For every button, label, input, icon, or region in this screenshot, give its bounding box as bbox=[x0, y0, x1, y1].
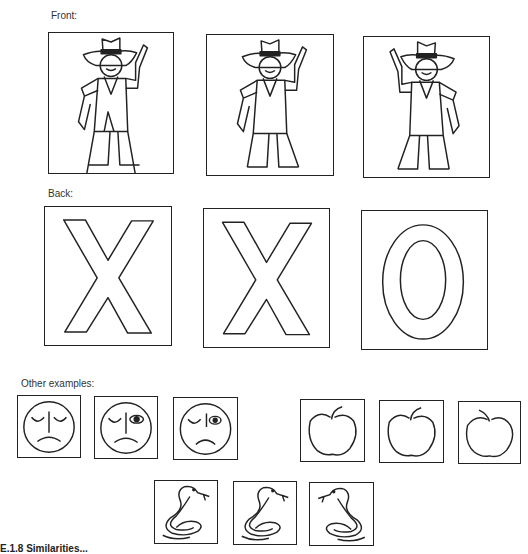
sad-face-icon bbox=[174, 398, 237, 459]
apple-card-2 bbox=[379, 400, 444, 463]
front-card-2 bbox=[206, 34, 334, 176]
letter-o-icon bbox=[362, 211, 487, 349]
snake-card-1 bbox=[154, 480, 218, 544]
apple-icon bbox=[301, 400, 364, 461]
snake-icon bbox=[234, 482, 296, 544]
letter-x-icon bbox=[204, 209, 329, 347]
front-label: Front: bbox=[51, 10, 77, 21]
front-card-3 bbox=[363, 36, 490, 178]
back-card-1 bbox=[44, 206, 172, 346]
snake-card-3 bbox=[309, 482, 374, 546]
face-card-1 bbox=[17, 395, 81, 458]
apple-card-1 bbox=[300, 399, 365, 462]
snake-card-2 bbox=[233, 481, 297, 545]
other-examples-label: Other examples: bbox=[21, 378, 94, 389]
front-card-1 bbox=[48, 32, 174, 174]
sad-face-icon bbox=[95, 397, 157, 458]
cowboy-icon bbox=[207, 35, 333, 175]
back-card-2 bbox=[203, 208, 330, 348]
cowboy-icon bbox=[364, 37, 489, 177]
snake-icon bbox=[310, 483, 373, 545]
sad-face-icon bbox=[18, 396, 80, 457]
back-card-3 bbox=[361, 210, 488, 350]
figure-caption: E.1.8 Similarities... bbox=[0, 543, 88, 554]
cowboy-icon bbox=[49, 33, 173, 173]
face-card-3 bbox=[173, 397, 238, 460]
snake-icon bbox=[155, 481, 217, 543]
apple-card-3 bbox=[458, 401, 521, 464]
letter-x-icon bbox=[45, 207, 171, 345]
apple-icon bbox=[459, 402, 520, 463]
back-label: Back: bbox=[48, 188, 73, 199]
face-card-2 bbox=[94, 396, 158, 459]
apple-icon bbox=[380, 401, 443, 462]
